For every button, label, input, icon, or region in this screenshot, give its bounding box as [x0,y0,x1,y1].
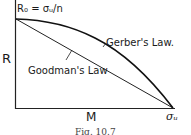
x-axis-label: M [86,111,96,123]
point-label: R₀ = σᵤ/n [17,4,63,14]
goodman-label: Goodman's Law [28,66,108,76]
gerber-label: Gerber's Law. [106,38,174,48]
caption: Fig. 10.7 [75,128,116,135]
goodman-pointer [66,50,72,60]
goodman-line [16,19,173,108]
x-end-label: σᵤ [166,111,178,122]
y-axis-label: R [2,52,11,65]
